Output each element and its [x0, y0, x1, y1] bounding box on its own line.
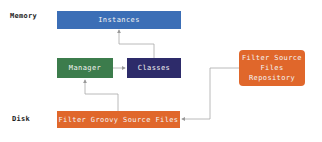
disk-layer-label: Disk: [12, 115, 30, 123]
repository-label-line3: Repository: [249, 73, 295, 83]
classes-node: Classes: [127, 58, 181, 78]
repository-node: Filter Source Files Repository: [239, 50, 305, 86]
edge-repository-filter: [182, 68, 239, 119]
edge-classes-instances: [119, 30, 154, 58]
manager-label: Manager: [69, 63, 101, 73]
repository-label-line2: Files: [260, 63, 283, 73]
classes-label: Classes: [138, 63, 170, 73]
memory-layer-label: Memory: [10, 12, 37, 20]
filter-groovy-node: Filter Groovy Source Files: [57, 111, 180, 128]
filter-groovy-label: Filter Groovy Source Files: [59, 115, 179, 125]
edge-filter-manager: [85, 80, 118, 111]
manager-node: Manager: [57, 58, 113, 78]
instances-label: Instances: [98, 15, 140, 25]
repository-label-line1: Filter Source: [242, 53, 302, 63]
instances-node: Instances: [57, 11, 181, 29]
